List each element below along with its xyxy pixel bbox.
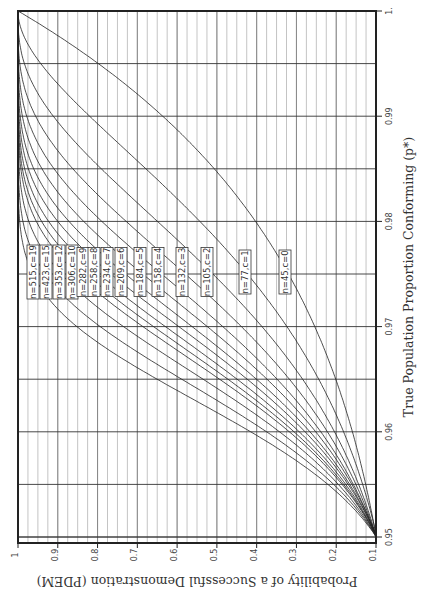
svg-text:n=77,c=1: n=77,c=1 xyxy=(240,250,250,293)
svg-text:n=306,c=10: n=306,c=10 xyxy=(67,245,77,299)
curve-label: n=423,c=15 xyxy=(40,245,52,299)
y-tick-label: 0.3 xyxy=(289,549,298,562)
y-tick-label: 1 xyxy=(11,552,20,557)
x-tick-label: 0.97 xyxy=(385,318,394,336)
x-tick-label: 0.99 xyxy=(385,107,394,125)
curve-label: n=132,c=3 xyxy=(176,248,188,297)
y-tick-label: 0.9 xyxy=(51,549,60,562)
x-tick-label: 0.95 xyxy=(385,528,394,546)
svg-text:n=515,c=19: n=515,c=19 xyxy=(28,245,38,299)
curve-label: n=77,c=1 xyxy=(239,250,251,294)
x-tick-label: 0.98 xyxy=(385,212,394,230)
curve-label: n=105,c=2 xyxy=(201,248,213,297)
curve-label: n=306,c=10 xyxy=(66,245,78,299)
svg-text:n=353,c=12: n=353,c=12 xyxy=(54,245,64,299)
curve-labels: n=515,c=19n=423,c=15n=353,c=12n=306,c=10… xyxy=(27,245,291,299)
x-tick-label: 1. xyxy=(385,7,394,15)
curve-label: n=209,c=6 xyxy=(115,248,127,297)
x-tick-label: 0.96 xyxy=(385,423,394,441)
curve-label: n=184,c=5 xyxy=(134,248,146,297)
svg-text:n=209,c=6: n=209,c=6 xyxy=(116,248,126,297)
svg-text:n=184,c=5: n=184,c=5 xyxy=(135,248,145,297)
y-tick-label: 0.6 xyxy=(170,549,179,562)
svg-text:n=258,c=8: n=258,c=8 xyxy=(89,248,99,297)
oc-curve-chart: n=515,c=19n=423,c=15n=353,c=12n=306,c=10… xyxy=(0,0,425,594)
curve-label: n=158,c=4 xyxy=(152,248,164,297)
curve-label: n=45,c=0 xyxy=(279,250,291,294)
curve-label: n=515,c=19 xyxy=(27,245,39,299)
svg-text:n=105,c=2: n=105,c=2 xyxy=(202,248,212,297)
y-tick-label: 0.7 xyxy=(130,549,139,562)
svg-text:n=158,c=4: n=158,c=4 xyxy=(153,248,163,297)
y-axis-title: Probability of a Successful Demonstratio… xyxy=(37,574,358,589)
svg-text:n=282,c=9: n=282,c=9 xyxy=(78,248,88,297)
curve-label: n=353,c=12 xyxy=(53,245,65,299)
svg-text:n=423,c=15: n=423,c=15 xyxy=(41,245,51,299)
svg-text:n=234,c=7: n=234,c=7 xyxy=(102,248,112,297)
x-axis-ticks: 0.950.960.970.980.991. xyxy=(376,7,394,546)
svg-text:n=45,c=0: n=45,c=0 xyxy=(280,250,290,293)
curve-label: n=282,c=9 xyxy=(77,248,89,297)
curve-label: n=234,c=7 xyxy=(101,248,113,297)
svg-text:n=132,c=3: n=132,c=3 xyxy=(177,248,187,297)
y-tick-label: 0.2 xyxy=(329,549,338,562)
y-tick-label: 0.1 xyxy=(369,549,378,562)
y-tick-label: 0.8 xyxy=(91,549,100,562)
x-axis-title: True Population Proportion Conforming (p… xyxy=(401,137,416,417)
curve-label: n=258,c=8 xyxy=(88,248,100,297)
y-tick-label: 0.4 xyxy=(250,549,259,562)
y-axis-ticks: 0.10.20.30.40.50.60.70.80.91 xyxy=(11,543,378,561)
y-tick-label: 0.5 xyxy=(210,549,219,562)
